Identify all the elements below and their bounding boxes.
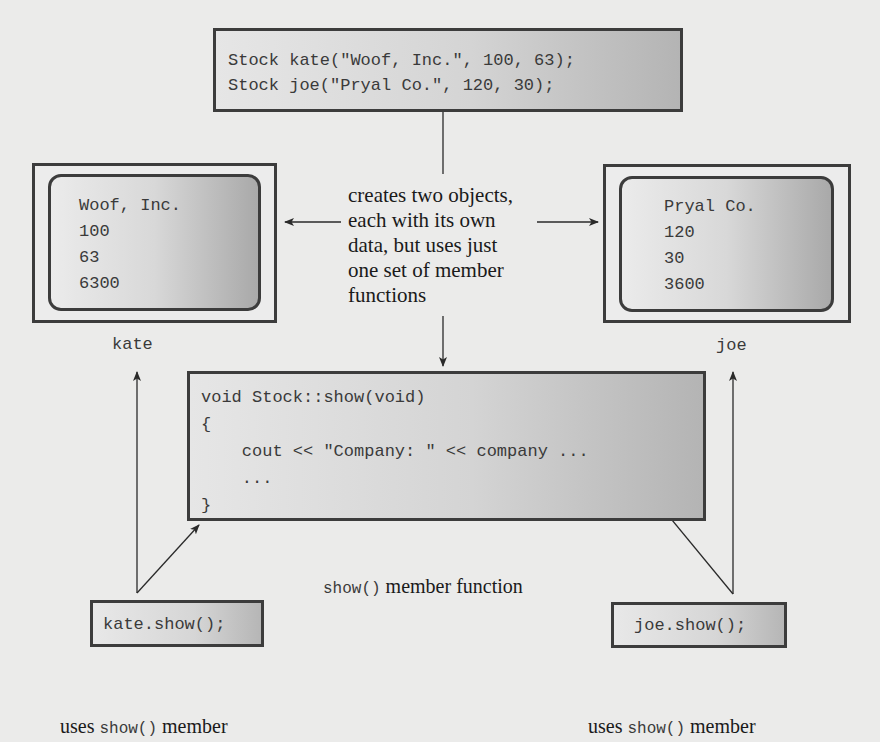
kate-show-call-code: kate.show(); [103,614,261,636]
joe-caption-text: member [685,715,756,737]
function-ellipsis-line: ... [201,465,703,492]
function-caption: show() member function [313,552,523,598]
center-note-line: data, but uses just [348,233,548,258]
center-note: creates two objects, each with its own d… [348,183,548,308]
kate-object-data: Woof, Inc. 100 63 6300 [48,174,261,311]
function-caption-text: member function [381,575,523,597]
function-signature: void Stock::show(void) [201,384,703,411]
function-caption-code: show() [323,580,381,598]
joe-company: Pryal Co. [664,194,831,220]
joe-shares: 120 [664,220,831,246]
joe-show-call-box: joe.show(); [611,602,787,648]
kate-total: 6300 [79,271,258,297]
function-close-brace: } [201,492,703,519]
kate-share-price: 63 [79,245,258,271]
declaration-line-kate: Stock kate("Woof, Inc.", 100, 63); [228,48,680,73]
center-note-line: creates two objects, [348,183,548,208]
declaration-code-box: Stock kate("Woof, Inc.", 100, 63); Stock… [213,28,683,112]
kate-caption-text: member [157,715,228,737]
kate-caption-code: show() [99,720,157,738]
kate-company: Woof, Inc. [79,193,258,219]
joe-caption-code: show() [627,720,685,738]
joe-show-call-code: joe.show(); [634,615,784,637]
kate-caption-text: uses [60,715,99,737]
kate-shares: 100 [79,219,258,245]
joe-caption-text: uses [588,715,627,737]
kate-object-label: kate [112,335,153,354]
kate-show-call-box: kate.show(); [90,600,264,647]
declaration-line-joe: Stock joe("Pryal Co.", 120, 30); [228,73,680,98]
joe-total: 3600 [664,272,831,298]
joe-call-caption: uses show() member function with joe dat… [588,659,767,742]
kate-call-caption: uses show() member function with kate da… [60,659,249,742]
joe-object-data: Pryal Co. 120 30 3600 [619,176,834,312]
center-note-line: functions [348,283,548,308]
center-note-line: each with its own [348,208,548,233]
function-open-brace: { [201,411,703,438]
center-note-line: one set of member [348,258,548,283]
function-cout-line: cout << "Company: " << company ... [201,438,703,465]
arrow-kate-call-to-function [137,525,199,593]
show-function-code-box: void Stock::show(void) { cout << "Compan… [187,371,706,521]
joe-share-price: 30 [664,246,831,272]
joe-object-label: joe [716,336,747,355]
